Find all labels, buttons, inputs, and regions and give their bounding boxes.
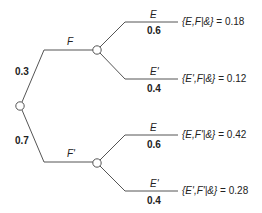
joint-probability-E-prime-F-prime: {E',F'|&} = 0.28 (182, 186, 248, 196)
chance-node-F-prime (93, 159, 101, 167)
chance-node-F (93, 46, 101, 54)
joint-value: = 0.28 (220, 185, 248, 196)
joint-value: = 0.18 (216, 16, 244, 27)
probability-F-prime: 0.7 (15, 136, 29, 146)
joint-probability-E-F-prime: {E,F'|&} = 0.42 (182, 130, 246, 140)
joint-label: {E',F|&} (182, 73, 215, 84)
event-label-E-prime-upper: E' (150, 67, 159, 77)
event-label-F: F (67, 37, 73, 47)
probability-E-given-F: 0.6 (147, 26, 161, 36)
branch-root-to-F-prime (22, 110, 93, 162)
root-node (16, 102, 24, 110)
probability-E-prime-given-F: 0.4 (147, 84, 161, 94)
event-label-E-prime-lower: E' (150, 179, 159, 189)
joint-label: {E',F'|&} (182, 185, 217, 196)
joint-probability-E-prime-F: {E',F|&} = 0.12 (182, 74, 246, 84)
joint-probability-E-F: {E,F|&} = 0.18 (182, 17, 244, 27)
joint-label: {E,F|&} (182, 16, 214, 27)
joint-value: = 0.12 (218, 73, 246, 84)
probability-tree-diagram (0, 0, 262, 213)
event-label-E-lower: E (150, 123, 157, 133)
joint-value: = 0.42 (218, 129, 246, 140)
joint-label: {E,F'|&} (182, 129, 215, 140)
branch-F-prime-to-E-prime (100, 166, 178, 191)
branch-F-prime-to-E (100, 135, 178, 160)
probability-E-prime-given-F-prime: 0.4 (147, 196, 161, 206)
branch-F-to-E-prime (100, 53, 178, 79)
event-label-F-prime: F' (67, 149, 75, 159)
branch-F-to-E (100, 22, 178, 47)
probability-F: 0.3 (15, 67, 29, 77)
branch-root-to-F (22, 50, 93, 102)
probability-E-given-F-prime: 0.6 (147, 140, 161, 150)
event-label-E-upper: E (150, 10, 157, 20)
